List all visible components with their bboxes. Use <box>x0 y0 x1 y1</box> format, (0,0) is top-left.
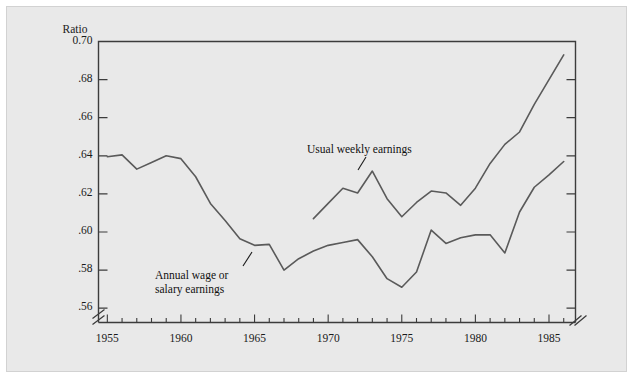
annotation-usual-weekly-earnings: Usual weekly earnings <box>307 142 412 156</box>
y-axis-ticks <box>99 80 108 309</box>
series-usual-weekly-line <box>313 55 563 219</box>
x-tick-label: 1955 <box>87 332 127 344</box>
annotation-annual-wage-earnings: Annual wage or salary earnings <box>155 268 228 297</box>
x-tick-label: 1985 <box>529 332 569 344</box>
x-tick-label: 1975 <box>382 332 422 344</box>
annotation-annual-line1: Annual wage or <box>155 268 228 282</box>
plot-area <box>0 0 633 378</box>
y-tick-label: .56 <box>78 300 92 312</box>
y-tick-label: .64 <box>78 148 92 160</box>
x-tick-label: 1965 <box>235 332 275 344</box>
y-tick-label: .60 <box>78 224 92 236</box>
y-tick-label: .62 <box>78 186 92 198</box>
x-axis-ticks <box>107 315 563 323</box>
y-axis-ticks-right <box>567 80 576 309</box>
annotation-weekly-line1: Usual weekly earnings <box>307 142 412 156</box>
y-tick-label: .68 <box>78 72 92 84</box>
y-tick-label: .58 <box>78 262 92 274</box>
annotation-leader-lines <box>243 157 366 266</box>
x-axis-break-icon <box>570 316 587 326</box>
annotation-annual-line2: salary earnings <box>155 282 228 296</box>
x-tick-label: 1960 <box>161 332 201 344</box>
x-tick-label: 1980 <box>455 332 495 344</box>
y-tick-label: .66 <box>78 110 92 122</box>
x-tick-label: 1970 <box>308 332 348 344</box>
chart-figure: Ratio 0.70.68.66.64.62.60.58.56 19551960… <box>0 0 633 378</box>
y-tick-label: 0.70 <box>72 34 92 46</box>
